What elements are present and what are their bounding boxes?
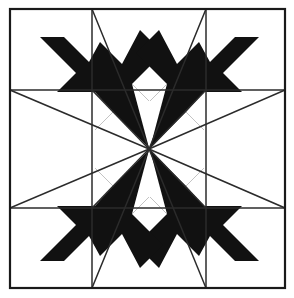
quilt-block-svg: Pinwheel Star Quilt Block Black-and-whit… (0, 0, 294, 298)
quilt-block-figure: Pinwheel Star Quilt Block Black-and-whit… (0, 0, 294, 298)
